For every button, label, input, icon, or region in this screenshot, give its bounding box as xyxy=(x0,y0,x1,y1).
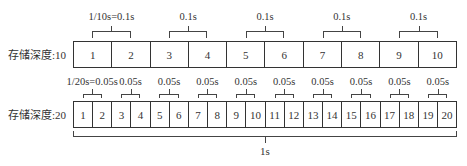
bracket-stem xyxy=(111,26,112,32)
bracket-stem xyxy=(169,89,170,95)
group-label: 0.05s xyxy=(273,76,295,87)
group-label: 0.1s xyxy=(256,11,273,22)
group-label: 0.05s xyxy=(196,76,218,87)
cell: 13 xyxy=(304,102,323,127)
total-brace-stem xyxy=(265,136,266,143)
row1-cells: 12345678910 xyxy=(73,41,457,68)
bracket-stem xyxy=(92,89,93,95)
cell: 7 xyxy=(189,102,208,127)
group-label: 0.1s xyxy=(180,11,197,22)
row2-cells: 1234567891011121314151617181920 xyxy=(73,101,457,128)
cell: 17 xyxy=(381,102,400,127)
row1-label: 存储深度:10 xyxy=(8,46,66,62)
cell: 1 xyxy=(74,102,93,127)
group-bracket xyxy=(121,94,140,98)
group-bracket xyxy=(169,31,207,38)
group-label: 0.05s xyxy=(311,76,333,87)
group-label: 1/20s=0.05s xyxy=(67,76,118,87)
group-bracket xyxy=(399,31,437,38)
group-bracket xyxy=(275,94,294,98)
total-label: 1s xyxy=(260,145,270,157)
cell: 14 xyxy=(323,102,342,127)
cell: 3 xyxy=(112,102,131,127)
group-bracket xyxy=(323,31,361,38)
bracket-stem xyxy=(246,89,247,95)
cell: 1 xyxy=(74,42,112,67)
group-label: 0.05s xyxy=(235,76,257,87)
group-label: 0.05s xyxy=(388,76,410,87)
group-bracket xyxy=(159,94,178,98)
group-label: 0.1s xyxy=(410,11,427,22)
cell: 2 xyxy=(93,102,112,127)
cell: 8 xyxy=(342,42,380,67)
cell: 3 xyxy=(151,42,189,67)
cell: 20 xyxy=(438,102,456,127)
group-bracket xyxy=(313,94,332,98)
group-bracket xyxy=(83,94,102,98)
bracket-stem xyxy=(361,89,362,95)
cell: 6 xyxy=(170,102,189,127)
group-bracket xyxy=(246,31,284,38)
bracket-stem xyxy=(265,26,266,32)
cell: 2 xyxy=(112,42,150,67)
cell: 10 xyxy=(419,42,456,67)
row2-label: 存储深度:20 xyxy=(8,106,66,122)
cell: 12 xyxy=(285,102,304,127)
bracket-stem xyxy=(438,89,439,95)
group-bracket xyxy=(198,94,217,98)
cell: 9 xyxy=(380,42,418,67)
cell: 5 xyxy=(227,42,265,67)
cell: 15 xyxy=(342,102,361,127)
group-label: 0.05s xyxy=(427,76,449,87)
bracket-stem xyxy=(323,89,324,95)
cell: 6 xyxy=(265,42,303,67)
cell: 7 xyxy=(304,42,342,67)
cell: 16 xyxy=(361,102,380,127)
group-bracket xyxy=(428,94,447,98)
cell: 4 xyxy=(131,102,150,127)
bracket-stem xyxy=(284,89,285,95)
bracket-stem xyxy=(131,89,132,95)
cell: 11 xyxy=(266,102,285,127)
group-label: 0.05s xyxy=(350,76,372,87)
bracket-stem xyxy=(342,26,343,32)
cell: 9 xyxy=(227,102,246,127)
group-bracket xyxy=(236,94,255,98)
bracket-stem xyxy=(207,89,208,95)
cell: 10 xyxy=(246,102,265,127)
cell: 8 xyxy=(208,102,227,127)
group-bracket xyxy=(351,94,370,98)
cell: 4 xyxy=(189,42,227,67)
cell: 5 xyxy=(151,102,170,127)
cell: 18 xyxy=(400,102,419,127)
group-label: 0.05s xyxy=(158,76,180,87)
group-label: 0.05s xyxy=(119,76,141,87)
group-label: 0.1s xyxy=(333,11,350,22)
bracket-stem xyxy=(188,26,189,32)
group-label: 1/10s=0.1s xyxy=(88,11,134,22)
total-brace xyxy=(73,131,457,137)
group-bracket xyxy=(390,94,409,98)
group-bracket xyxy=(92,31,130,38)
cell: 19 xyxy=(419,102,438,127)
bracket-stem xyxy=(419,26,420,32)
bracket-stem xyxy=(399,89,400,95)
